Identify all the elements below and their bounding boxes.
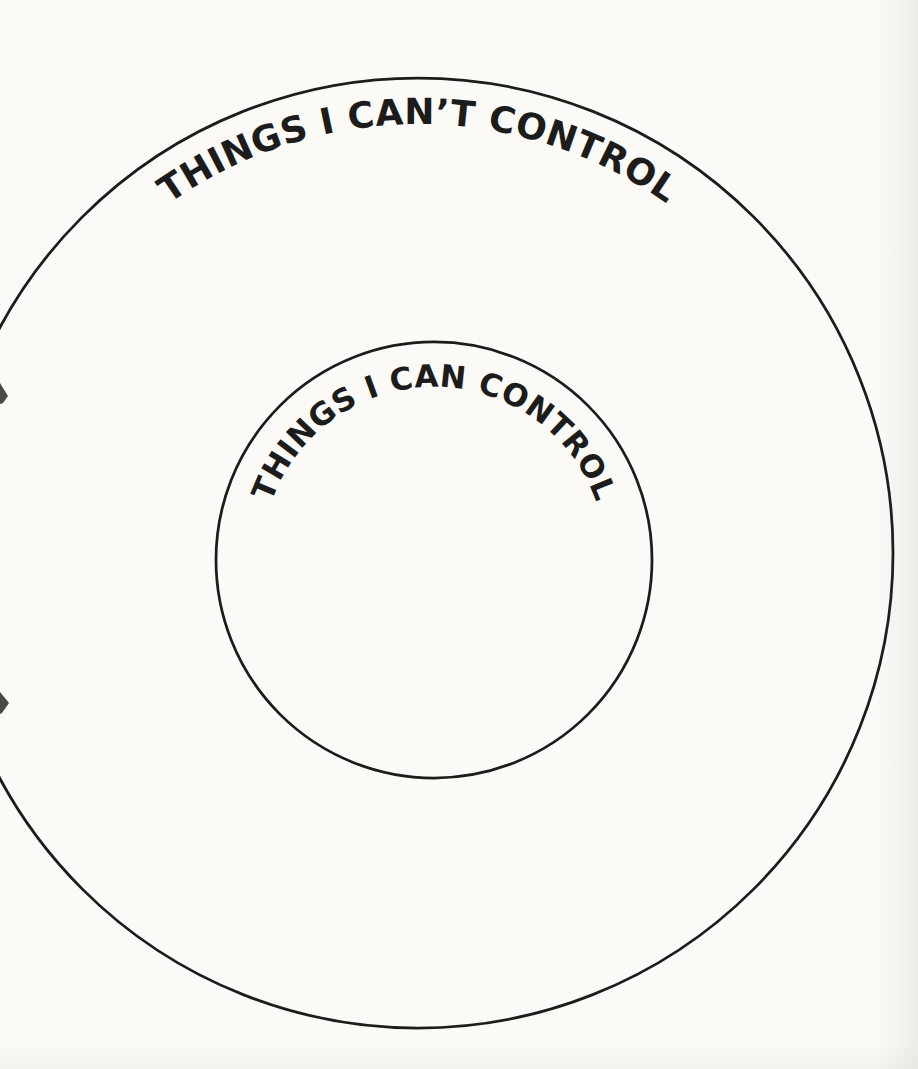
outer-circle-label-text: THINGS I CAN’T CONTROL xyxy=(150,91,685,210)
left-edge-smudge-bottom xyxy=(0,692,9,714)
paper-background: THINGS I CAN’T CONTROL THINGS I CAN CONT… xyxy=(0,0,918,1069)
inner-circle-label: THINGS I CAN CONTROL xyxy=(244,357,623,505)
outer-circle xyxy=(0,78,893,1028)
outer-circle-label: THINGS I CAN’T CONTROL xyxy=(150,91,685,210)
inner-circle-label-text: THINGS I CAN CONTROL xyxy=(244,357,623,505)
inner-circle xyxy=(216,342,652,778)
circles-of-control-diagram: THINGS I CAN’T CONTROL THINGS I CAN CONT… xyxy=(0,0,918,1069)
left-edge-smudge-top xyxy=(0,383,8,404)
